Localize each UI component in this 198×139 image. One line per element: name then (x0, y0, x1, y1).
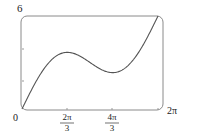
origin-label: 0 (13, 112, 18, 123)
x-tick-label-2pi3-num: 2π (62, 112, 72, 122)
x-tick-label-4pi3-den: 3 (110, 123, 115, 133)
x-tick-label-4pi3-num: 4π (107, 112, 117, 122)
plot-frame (21, 16, 163, 110)
x-tick-label-2pi3-den: 3 (65, 123, 70, 133)
y-max-label: 6 (17, 2, 23, 14)
x-max-label: 2π (167, 105, 177, 116)
function-curve (22, 16, 158, 109)
chart: 6 0 2π 3 4π 3 2π (0, 0, 198, 139)
